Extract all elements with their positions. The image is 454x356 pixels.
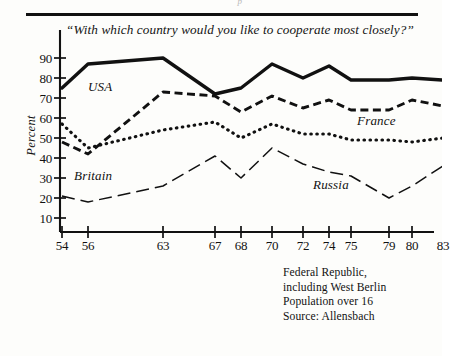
note-line-2: including West Berlin — [283, 281, 386, 296]
data-series — [62, 58, 442, 202]
note-line-1: Federal Republic, — [283, 266, 386, 281]
series-line-britain — [62, 122, 442, 148]
source-note: Federal Republic, including West Berlin … — [283, 266, 386, 324]
series-line-usa — [62, 58, 442, 94]
series-line-russia — [62, 148, 442, 202]
note-line-4: Source: Allensbach — [283, 310, 386, 325]
series-line-france — [62, 92, 442, 154]
note-line-3: Population over 16 — [283, 295, 386, 310]
